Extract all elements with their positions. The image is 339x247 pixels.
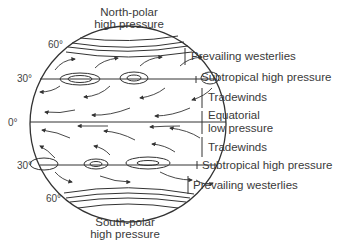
- zone-label-subtropical-high-south: Subtropical high pressure: [202, 159, 332, 171]
- zone-label-subtropical-high-north: Subtropical high pressure: [201, 71, 331, 83]
- zone-label-prevailing-westerlies-north: Prevailing westerlies: [191, 50, 296, 62]
- zone-label-tradewinds-south: Tradewinds: [208, 141, 267, 153]
- zone-label-tradewinds-north: Tradewinds: [208, 91, 267, 103]
- zone-label-equatorial-line2: low pressure: [208, 122, 273, 134]
- zone-label-equatorial-line1: Equatorial: [208, 109, 260, 121]
- zone-label-prevailing-westerlies-south: Prevailing westerlies: [193, 179, 298, 191]
- globe-wind-diagram: [0, 0, 339, 247]
